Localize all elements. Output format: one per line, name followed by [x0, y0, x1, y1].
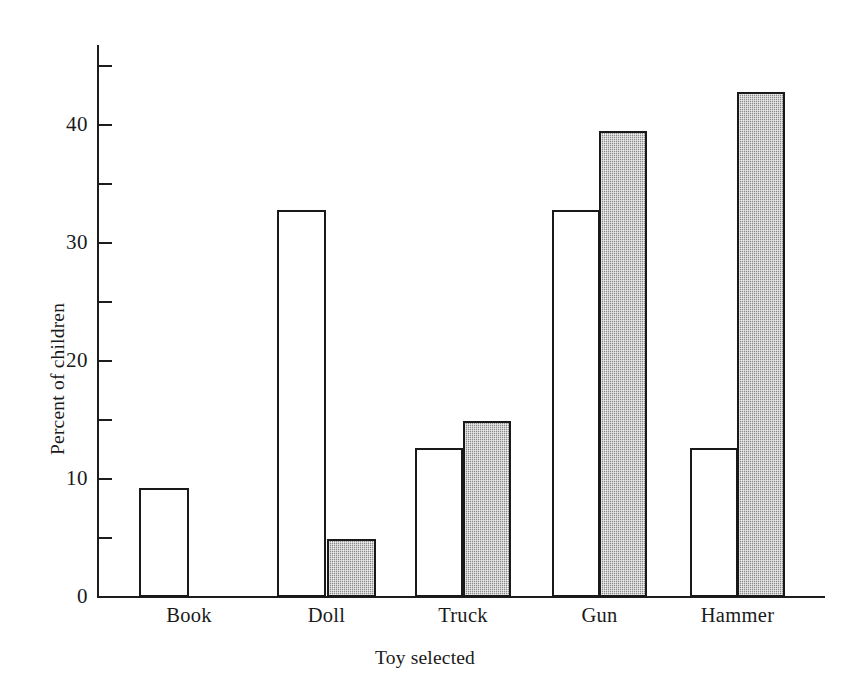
y-axis-tick-label: 0	[42, 586, 88, 607]
bar-doll-open	[277, 210, 326, 597]
y-axis-tick-label: 40	[42, 114, 88, 135]
scan-edge-residue	[0, 0, 850, 6]
y-axis-tick-label: 30	[42, 232, 88, 253]
bar-truck-open	[415, 448, 463, 597]
bar-hammer-open	[690, 448, 738, 597]
plot-area	[98, 45, 825, 597]
bar-book-open	[139, 488, 189, 597]
bar-doll-shaded	[327, 539, 376, 597]
bar-gun-shaded	[599, 131, 647, 597]
y-axis-tick-label: 10	[42, 468, 88, 489]
bar-hammer-shaded	[737, 92, 785, 597]
y-axis-title: Percent of children	[48, 303, 68, 455]
bar-chart-figure: Percent of children 010203040 BookDollTr…	[0, 0, 850, 676]
y-axis-tick-label: 20	[42, 350, 88, 371]
bar-truck-shaded	[463, 421, 511, 597]
bar-gun-open	[552, 210, 600, 597]
x-axis-label-book: Book	[109, 604, 269, 626]
x-axis-label-hammer: Hammer	[658, 604, 818, 626]
x-axis-title: Toy selected	[0, 648, 850, 668]
x-axis-label-gun: Gun	[520, 604, 680, 626]
